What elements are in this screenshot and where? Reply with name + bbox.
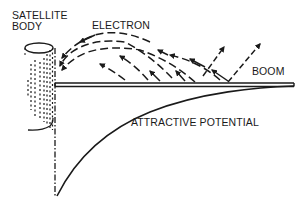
attractive-potential-label: ATTRACTIVE POTENTIAL (131, 117, 259, 128)
satellite-body-label: SATELLITE BODY (12, 10, 68, 32)
boom (55, 83, 294, 87)
satellite-label-line2: BODY (12, 21, 68, 32)
diagram-graphics (0, 0, 305, 216)
electron-label: ELECTRON (92, 20, 150, 31)
satellite-boom-diagram: SATELLITE BODY ELECTRON BOOM ATTRACTIVE … (0, 0, 305, 216)
satellite-body (25, 43, 53, 130)
boom-label: BOOM (252, 66, 285, 77)
attractive-potential-curve (57, 86, 294, 196)
returning-electron-paths (60, 33, 220, 82)
